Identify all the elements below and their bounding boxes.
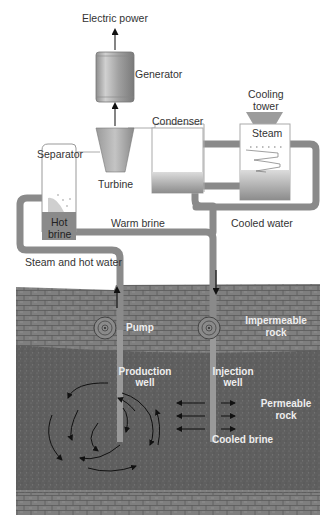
condenser-outlet-pipe [195,192,213,232]
bottom-rock-strip [16,493,320,515]
label-injection-well-1: Injection [210,366,256,377]
label-hot-brine-1: Hot [51,216,67,228]
pump-icon [94,317,116,339]
label-production-well-1: Production [114,366,176,377]
label-generator: Generator [135,68,182,80]
turbine [96,128,134,172]
label-impermeable-rock-2: rock [242,327,310,338]
cooling-tower [240,112,290,200]
label-cooling-tower-2: tower [253,100,279,112]
label-turbine: Turbine [98,178,133,190]
label-cooled-water: Cooled water [231,217,293,229]
label-electric-power: Electric power [82,12,148,24]
label-cooled-brine: Cooled brine [212,434,273,445]
label-pump: Pump [126,322,154,333]
label-steam-hot-water: Steam and hot water [25,256,122,268]
label-injection-well-2: well [210,377,256,388]
injection-valve-icon [198,317,220,339]
generator [96,30,134,126]
condenser [152,128,203,193]
label-production-well-2: well [114,377,176,388]
label-impermeable-rock-1: Impermeable [242,315,310,326]
label-permeable-rock-1: Permeable [255,398,317,409]
label-hot-brine-2: brine [48,228,71,240]
label-cooling-tower-1: Cooling [248,88,284,100]
label-condenser: Condenser [152,115,203,127]
label-permeable-rock-2: rock [255,410,317,421]
label-steam: Steam [252,127,282,139]
label-warm-brine: Warm brine [111,217,165,229]
label-separator: Separator [37,148,83,160]
